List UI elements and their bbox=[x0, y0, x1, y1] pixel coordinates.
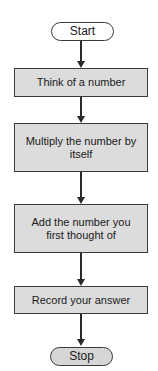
step-label: Multiply the number by itself bbox=[25, 135, 137, 161]
step-label: Record your answer bbox=[32, 294, 130, 307]
arrowhead-icon bbox=[77, 197, 85, 204]
step-label: Think of a number bbox=[37, 76, 126, 89]
process-step-think: Think of a number bbox=[14, 68, 148, 97]
arrow-connector bbox=[80, 97, 82, 117]
arrowhead-icon bbox=[77, 61, 85, 68]
process-step-record: Record your answer bbox=[14, 286, 148, 314]
stop-terminal: Stop bbox=[50, 347, 113, 366]
start-terminal: Start bbox=[51, 22, 114, 41]
step-label: Add the number you first thought of bbox=[25, 216, 137, 242]
arrow-connector bbox=[80, 41, 82, 62]
stop-label: Stop bbox=[69, 350, 94, 363]
arrow-connector bbox=[80, 172, 82, 198]
arrow-connector bbox=[80, 314, 82, 340]
arrowhead-icon bbox=[77, 116, 85, 123]
arrow-connector bbox=[80, 253, 82, 280]
process-step-multiply: Multiply the number by itself bbox=[14, 123, 148, 172]
arrowhead-icon bbox=[77, 339, 85, 346]
start-label: Start bbox=[70, 25, 95, 38]
process-step-add: Add the number you first thought of bbox=[14, 204, 148, 253]
arrowhead-icon bbox=[77, 279, 85, 286]
